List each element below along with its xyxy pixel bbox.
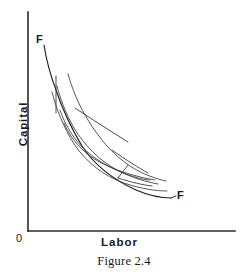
- ridge-stub-mid: [75, 108, 128, 142]
- x-axis-label: Labor: [101, 236, 138, 248]
- f-label-leader: [171, 196, 176, 198]
- figure-caption: Figure 2.4: [0, 254, 248, 269]
- ridge-stub-lower: [112, 150, 148, 173]
- curve-label-f-top: F: [36, 33, 43, 45]
- axis-origin-label: 0: [16, 232, 23, 244]
- curve-isoquant-2: [68, 74, 166, 181]
- curve-isoquant-5: [64, 123, 155, 180]
- curve-label-f-bottom: F: [177, 189, 184, 201]
- y-axis-label: Capital: [17, 89, 29, 159]
- figure-container: F F 0 Labor Capital Figure 2.4: [0, 0, 248, 274]
